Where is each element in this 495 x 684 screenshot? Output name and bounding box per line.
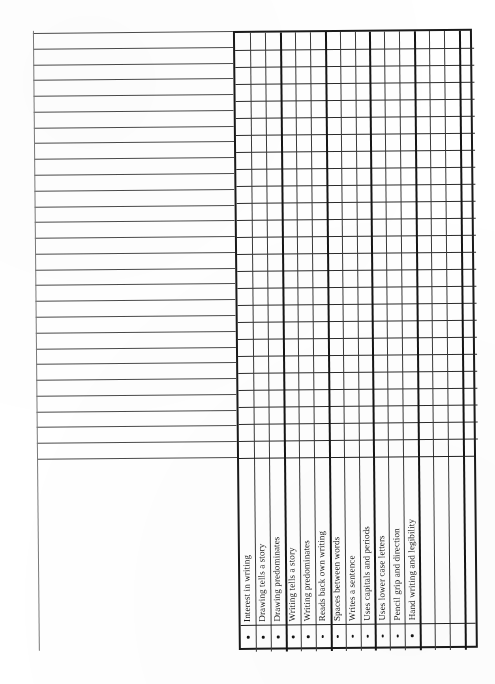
bullet-dot-icon: [411, 634, 414, 637]
criteria-label-cell: Hand writing and legibility: [403, 456, 420, 623]
criteria-bullet-cell[interactable]: [375, 623, 390, 648]
criteria-label-text: Spaces between words: [332, 537, 342, 621]
criteria-label-cell: Drawing tells a story: [254, 458, 271, 625]
criteria-label-cell: Uses capitals and periods: [359, 457, 376, 624]
writing-rule-line: [34, 189, 234, 192]
criteria-label-text: Drawing predominates: [273, 536, 283, 621]
criteria-label-text: Writing predominates: [302, 540, 312, 621]
criteria-label-text: Writes a sentence: [347, 555, 357, 621]
writing-rule-line: [35, 283, 235, 286]
criteria-label-text: Pencil grip and direction: [392, 528, 402, 620]
criteria-label-cell: Interest in writing: [239, 458, 256, 625]
criteria-label-cell: [433, 456, 450, 623]
writing-rule-line: [35, 220, 235, 223]
criteria-label-text: Uses capitals and periods: [362, 526, 372, 621]
writing-rule-line: [36, 362, 236, 365]
criteria-label-text: Drawing tells a story: [258, 544, 268, 622]
criteria-label-cell: Writes a sentence: [344, 457, 361, 624]
criteria-bullet-cell[interactable]: [241, 625, 256, 650]
bullet-dot-icon: [366, 635, 369, 638]
writing-rule-line: [34, 157, 234, 160]
criteria-labels: Interest in writingDrawing tells a story…: [239, 456, 476, 625]
criteria-label-cell: Writing predominates: [299, 457, 316, 624]
criteria-label-cell: Reads back own writing: [314, 457, 331, 624]
bullet-dot-icon: [381, 635, 384, 638]
bullet-dot-icon: [307, 635, 310, 638]
writing-rule-line: [36, 346, 236, 349]
writing-rule-line: [36, 394, 236, 397]
writing-rule-line: [33, 31, 233, 34]
scanned-form-page: Interest in writingDrawing tells a story…: [0, 0, 495, 684]
writing-rule-line: [34, 173, 234, 176]
criteria-label-text: Uses lower case letters: [377, 535, 387, 620]
bullet-dot-icon: [337, 635, 340, 638]
criteria-bullet-cell[interactable]: [256, 625, 271, 650]
bullet-dot-icon: [351, 635, 354, 638]
writing-rule-line: [34, 110, 234, 113]
criteria-bullet-cell[interactable]: [435, 623, 450, 648]
criteria-bullet-cell[interactable]: [345, 624, 360, 649]
criteria-bullet-cell[interactable]: [390, 623, 405, 648]
writing-rule-line: [36, 331, 236, 334]
writing-rule-line: [37, 410, 237, 413]
criteria-bullet-cell[interactable]: [360, 624, 375, 649]
writing-rule-line: [35, 204, 235, 207]
bullet-dot-icon: [277, 636, 280, 639]
writing-rule-line: [34, 141, 234, 144]
criteria-bullet-cell[interactable]: [330, 624, 345, 649]
criteria-bullet-cell[interactable]: [405, 623, 420, 648]
criteria-label-cell: [418, 456, 435, 623]
bullet-dot-icon: [247, 636, 250, 639]
writing-rule-line: [33, 47, 233, 50]
criteria-bullet-cell[interactable]: [315, 624, 330, 649]
criteria-label-cell: Pencil grip and direction: [388, 456, 405, 623]
writing-rule-line: [33, 78, 233, 81]
writing-rule-line: [36, 315, 236, 318]
writing-rule-line: [35, 268, 235, 271]
writing-rule-line: [36, 378, 236, 381]
bullet-dot-icon: [262, 636, 265, 639]
criteria-bullet-cell[interactable]: [450, 623, 465, 648]
criteria-bullet-cell[interactable]: [420, 623, 435, 648]
writing-rule-line: [37, 457, 237, 460]
criteria-bullet-cell[interactable]: [300, 624, 315, 649]
grid-row-lines: [235, 31, 470, 33]
writing-rule-line: [37, 425, 237, 428]
criteria-bullet-cell[interactable]: [465, 623, 480, 648]
bullet-dot-icon: [292, 636, 295, 639]
form-skew-wrapper: Interest in writingDrawing tells a story…: [0, 0, 495, 684]
criteria-label-cell: [448, 456, 465, 623]
criteria-label-text: Writing tells a story: [288, 547, 298, 621]
criteria-label-cell: Uses lower case letters: [373, 456, 390, 623]
writing-rule-line: [37, 441, 237, 444]
criteria-bullet-cell[interactable]: [285, 624, 300, 649]
writing-rule-line: [35, 252, 235, 255]
writing-rule-line: [34, 94, 234, 97]
criteria-bullets: [241, 623, 476, 650]
criteria-label-text: Interest in writing: [243, 555, 253, 622]
criteria-label-cell: [463, 456, 480, 623]
student-name-lines: [33, 31, 237, 459]
criteria-label-text: Reads back own writing: [317, 531, 327, 621]
writing-rule-line: [36, 299, 236, 302]
bullet-dot-icon: [322, 635, 325, 638]
writing-rule-line: [34, 126, 234, 129]
grid-column-lines: [235, 31, 470, 33]
criteria-label-cell: Spaces between words: [329, 457, 346, 624]
criteria-label-cell: Writing tells a story: [284, 457, 301, 624]
writing-rule-line: [33, 63, 233, 66]
writing-rule-line: [35, 236, 235, 239]
bullet-dot-icon: [396, 635, 399, 638]
criteria-label-text: Hand writing and legibility: [407, 519, 417, 621]
criteria-label-cell: Drawing predominates: [269, 457, 286, 624]
assessment-grid[interactable]: Interest in writingDrawing tells a story…: [233, 29, 478, 650]
criteria-bullet-cell[interactable]: [270, 624, 285, 649]
